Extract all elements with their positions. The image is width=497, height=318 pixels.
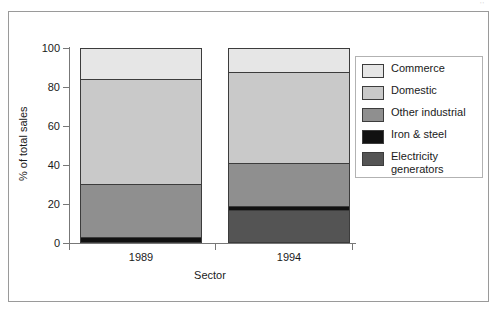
legend-label: Electricity generators	[391, 150, 444, 176]
x-tick-mark	[69, 244, 70, 250]
page-corner-artifact: ''	[463, 0, 485, 9]
y-tick-label: 60	[48, 121, 60, 132]
x-tick-label: 1989	[129, 251, 153, 264]
y-tick-mark	[63, 165, 69, 166]
bar-segment	[80, 237, 202, 243]
legend-swatch	[362, 108, 384, 122]
bar-segment	[228, 163, 350, 206]
x-tick-mark	[352, 244, 353, 250]
legend-swatch	[362, 64, 384, 78]
bar-segment	[228, 48, 350, 72]
bar-segment	[228, 206, 350, 210]
legend-item: Commerce	[362, 62, 478, 84]
y-tick-label: 40	[48, 160, 60, 171]
y-axis-title: % of total sales	[16, 94, 30, 194]
chart-legend: CommerceDomesticOther industrialIron & s…	[355, 56, 483, 178]
y-tick-label: 0	[54, 238, 60, 249]
plot-area: 020406080100	[69, 48, 355, 243]
legend-swatch	[362, 130, 384, 144]
x-axis-title: Sector	[0, 269, 420, 282]
legend-item: Electricity generators	[362, 150, 478, 180]
bar-segment	[80, 48, 202, 79]
bar-segment	[228, 72, 350, 163]
y-tick-label: 80	[48, 82, 60, 93]
y-tick-mark	[63, 204, 69, 205]
bar-segment	[80, 79, 202, 183]
y-tick-label: 100	[42, 43, 60, 54]
legend-swatch	[362, 152, 384, 166]
x-tick-label: 1994	[277, 251, 301, 264]
figure-root: '' % of total sales Sector 020406080100 …	[0, 0, 497, 318]
legend-item: Iron & steel	[362, 128, 478, 150]
bar-segment	[228, 210, 350, 243]
x-tick-mark	[215, 244, 216, 250]
y-tick-mark	[63, 87, 69, 88]
legend-label: Other industrial	[391, 106, 466, 119]
y-tick-label: 20	[48, 199, 60, 210]
legend-label: Domestic	[391, 84, 437, 97]
legend-item: Domestic	[362, 84, 478, 106]
legend-item: Other industrial	[362, 106, 478, 128]
y-tick-mark	[63, 126, 69, 127]
stacked-bar	[80, 48, 202, 243]
bar-segment	[80, 184, 202, 238]
legend-label: Iron & steel	[391, 128, 447, 141]
legend-swatch	[362, 86, 384, 100]
x-axis-line	[69, 243, 356, 244]
y-tick-mark	[63, 48, 69, 49]
legend-label: Commerce	[391, 62, 445, 75]
stacked-bar	[228, 48, 350, 243]
